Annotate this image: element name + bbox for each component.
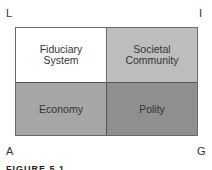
cell-label: Societal Community: [125, 44, 178, 66]
cell-economy: Economy: [16, 83, 107, 135]
cell-societal-community: Societal Community: [107, 28, 197, 83]
corner-label-a: A: [6, 146, 13, 157]
cell-label: Fiduciary System: [40, 44, 83, 66]
cell-label: Polity: [139, 104, 165, 115]
corner-label-l: L: [6, 8, 12, 19]
agil-grid: Fiduciary System Societal Community Econ…: [15, 27, 198, 136]
cell-label: Economy: [39, 104, 83, 115]
figure-caption: FIGURE 5.1: [6, 164, 65, 170]
corner-label-g: G: [197, 146, 206, 157]
corner-label-i: I: [199, 8, 202, 19]
cell-polity: Polity: [107, 83, 197, 135]
cell-fiduciary-system: Fiduciary System: [16, 28, 107, 83]
